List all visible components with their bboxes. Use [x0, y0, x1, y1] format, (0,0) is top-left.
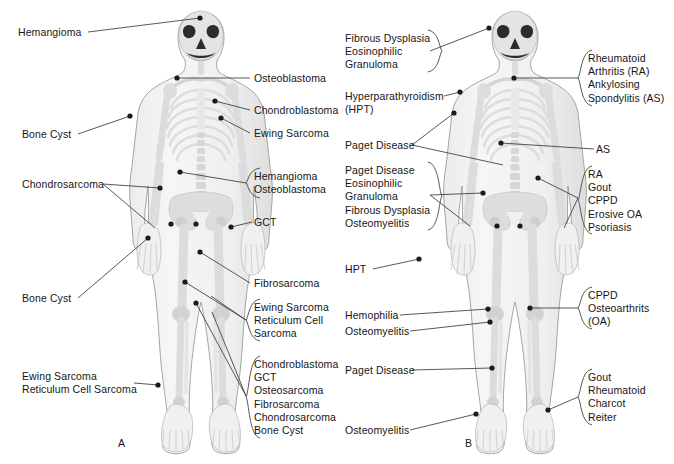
- label-line: Psoriasis: [588, 221, 642, 234]
- marker-dot-ewing-sarcoma-humerus: [218, 115, 223, 120]
- label-line: AS: [596, 143, 610, 156]
- marker-dot-hemangioma-osteoblastoma-spine: [177, 169, 182, 174]
- label-line: Bone Cyst: [254, 424, 338, 437]
- marker-dot-bone-cyst-proximal-humerus: [127, 113, 132, 118]
- label-fibrosarcoma-femur: Fibrosarcoma: [254, 277, 319, 290]
- label-line: Ewing Sarcoma: [254, 301, 329, 314]
- label-ewing-reticulum-femur: Ewing SarcomaReticulum CellSarcoma: [254, 301, 329, 341]
- label-line: Charcot: [588, 397, 646, 410]
- label-bone-cyst-femur: Bone Cyst: [22, 292, 71, 305]
- label-line: Arthritis (RA): [588, 65, 664, 78]
- label-line: Chondroblastoma: [254, 104, 338, 117]
- panel-a-skeleton: [130, 11, 273, 454]
- label-line: (OA): [588, 315, 649, 328]
- marker-dot-extra-A-0: [168, 221, 173, 226]
- marker-dot-gout-rheumatoid-charcot-reiter-foot: [545, 407, 550, 412]
- label-line: Chondrosarcoma: [254, 411, 338, 424]
- leader-fibrous-dysplasia-eg-skull: [430, 28, 489, 51]
- label-rheumatoid-ankylosing-cervical: RheumatoidArthritis (RA)AnkylosingSpondy…: [588, 52, 664, 105]
- label-hemangioma-skull: Hemangioma: [18, 26, 81, 39]
- label-gct-distal-radius: GCT: [254, 216, 276, 229]
- marker-dot-chondroblastoma-humerus: [212, 98, 217, 103]
- label-osteomyelitis-foot: Osteomyelitis: [345, 424, 409, 437]
- label-line: Reticulum Cell: [254, 314, 329, 327]
- label-line: Spondylitis (AS): [588, 92, 664, 105]
- label-gout-rheumatoid-charcot-reiter-foot: GoutRheumatoidCharcotReiter: [588, 371, 646, 424]
- marker-dot-fibrosarcoma-femur: [197, 249, 202, 254]
- marker-dot-paget-disease-tibia: [489, 365, 494, 370]
- label-knee-lesions-group: ChondroblastomaGCTOsteosarcomaFibrosarco…: [254, 358, 338, 437]
- leader-ewing-reticulum-tibia: [134, 383, 158, 385]
- label-line: Osteomyelitis: [345, 424, 409, 437]
- label-line: Fibrosarcoma: [254, 277, 319, 290]
- marker-dot-hemophilia-knee: [485, 306, 490, 311]
- marker-dot-ewing-reticulum-tibia: [155, 382, 160, 387]
- marker-dot-fibrous-dysplasia-eg-skull: [486, 25, 491, 30]
- marker-dot-extra-A-1: [193, 221, 198, 226]
- marker-dot-bone-cyst-femur: [145, 235, 150, 240]
- label-line: Chondrosarcoma: [22, 178, 104, 191]
- label-line: CPPD: [588, 289, 649, 302]
- marker-dot-ra-gout-cppd-hand-group: [535, 175, 540, 180]
- label-line: Fibrous Dysplasia: [345, 32, 430, 45]
- label-line: Hemangioma: [254, 170, 326, 183]
- label-chondrosarcoma-pelvis: Chondrosarcoma: [22, 178, 104, 191]
- label-line: Chondroblastoma: [254, 358, 338, 371]
- label-line: Granuloma: [345, 190, 430, 203]
- label-chondroblastoma-humerus: Chondroblastoma: [254, 104, 338, 117]
- label-line: Osteoblastoma: [254, 72, 326, 85]
- label-paget-eg-fd-osteomyelitis-pelvis: Paget DiseaseEosinophilicGranulomaFibrou…: [345, 164, 430, 230]
- leader-gout-rheumatoid-charcot-reiter-foot: [548, 397, 578, 410]
- marker-dot-osteoblastoma-spine: [174, 75, 179, 80]
- marker-dot-hpt-hand: [416, 256, 421, 261]
- label-line: Paget Disease: [345, 164, 430, 177]
- marker-dot-as-thoracic-spine: [498, 140, 503, 145]
- label-line: Erosive OA: [588, 208, 642, 221]
- label-hemangioma-osteoblastoma-spine: HemangiomaOsteoblastoma: [254, 170, 326, 196]
- marker-dot-paget-disease-humerus-spine: [451, 110, 456, 115]
- label-line: Granuloma: [345, 58, 430, 71]
- label-ewing-sarcoma-humerus: Ewing Sarcoma: [254, 127, 329, 140]
- label-ra-gout-cppd-hand-group: RAGoutCPPDErosive OAPsoriasis: [588, 168, 642, 234]
- marker-dot-osteomyelitis-knee: [487, 319, 492, 324]
- label-line: Ewing Sarcoma: [22, 370, 137, 383]
- label-as-thoracic-spine: AS: [596, 143, 610, 156]
- label-line: Fibrous Dysplasia: [345, 204, 430, 217]
- label-line: Sarcoma: [254, 327, 329, 340]
- label-line: Reticulum Cell Sarcoma: [22, 383, 137, 396]
- leader-hpt-hand: [373, 259, 419, 269]
- label-line: GCT: [254, 216, 276, 229]
- panel-letter-b: B: [465, 437, 472, 449]
- label-line: Eosinophilic: [345, 45, 430, 58]
- marker-dot-cppd-osteoarthritis-knee: [527, 305, 532, 310]
- label-line: Eosinophilic: [345, 177, 430, 190]
- label-line: Bone Cyst: [22, 292, 71, 305]
- panel-letter-a: A: [118, 437, 125, 449]
- label-line: CPPD: [588, 194, 642, 207]
- label-line: Osteosarcoma: [254, 384, 338, 397]
- leader-bone-cyst-proximal-humerus: [78, 116, 130, 134]
- label-line: Gout: [588, 181, 642, 194]
- label-line: Fibrosarcoma: [254, 398, 338, 411]
- label-hyperparathyroidism-shoulder: Hyperparathyroidism(HPT): [345, 90, 444, 116]
- label-line: Osteomyelitis: [345, 217, 430, 230]
- label-paget-disease-humerus-spine: Paget Disease: [345, 139, 415, 152]
- label-line: Bone Cyst: [22, 128, 71, 141]
- marker-dot-rheumatoid-ankylosing-cervical: [511, 75, 516, 80]
- marker-dot-extra-B-0: [494, 223, 499, 228]
- marker-dot-ewing-reticulum-femur: [182, 279, 187, 284]
- label-line: Paget Disease: [345, 139, 415, 152]
- label-line: Reiter: [588, 411, 646, 424]
- label-ewing-reticulum-tibia: Ewing SarcomaReticulum Cell Sarcoma: [22, 370, 137, 396]
- label-fibrous-dysplasia-eg-skull: Fibrous DysplasiaEosinophilicGranuloma: [345, 32, 430, 72]
- label-line: (HPT): [345, 103, 444, 116]
- label-line: Hemophilia: [345, 309, 399, 322]
- label-bone-cyst-proximal-humerus: Bone Cyst: [22, 128, 71, 141]
- label-osteomyelitis-knee: Osteomyelitis: [345, 325, 409, 338]
- label-line: Hemangioma: [18, 26, 81, 39]
- label-line: Osteoarthrits: [588, 302, 649, 315]
- label-line: GCT: [254, 371, 338, 384]
- leader-osteomyelitis-foot: [410, 414, 476, 430]
- marker-dot-hyperparathyroidism-shoulder: [457, 89, 462, 94]
- marker-dot-hemangioma-skull: [197, 15, 202, 20]
